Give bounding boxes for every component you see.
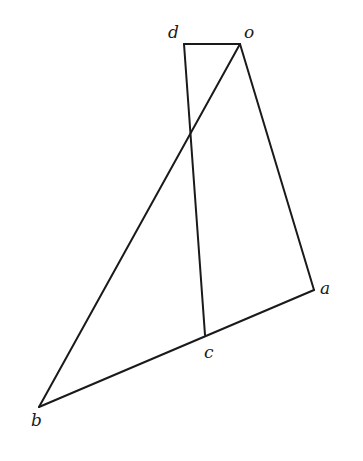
segment-o-a bbox=[240, 44, 314, 290]
point-label-d: d bbox=[168, 22, 179, 42]
point-label-o: o bbox=[244, 22, 254, 42]
geometric-diagram: o d a c b bbox=[0, 0, 363, 461]
segment-b-a bbox=[39, 290, 314, 407]
segment-d-c bbox=[184, 44, 205, 335]
point-label-c: c bbox=[204, 342, 214, 362]
point-label-b: b bbox=[31, 410, 42, 430]
point-label-a: a bbox=[320, 278, 330, 298]
